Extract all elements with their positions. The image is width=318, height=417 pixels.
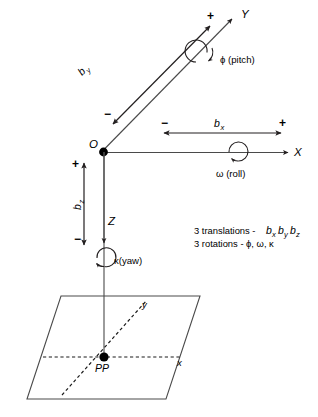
bz-subscript: z [77,200,86,205]
legend-group: 3 translations - b x b y b z 3 rotations… [194,224,300,249]
y-axis-line [104,19,233,150]
image-y-axis-label: y [141,299,148,310]
principal-point-label: PP [95,362,109,374]
z-axis-label: Z [107,215,116,227]
bz-translation-group: + − b z [71,157,86,246]
image-x-axis-label: x [176,357,183,368]
by-minus-sign: − [104,107,111,121]
bz-label: b [71,204,83,210]
by-plus-sign: + [207,9,214,23]
roll-label: ω (roll) [216,168,245,179]
roll-rotation-group: ω (roll) [216,142,248,179]
pitch-label: ϕ (pitch) [220,54,255,65]
principal-point-dot [99,352,108,361]
pitch-arc [185,40,207,62]
legend-translations-line: 3 translations - b x b y b z [194,224,300,239]
pitch-rotation-group: ϕ (pitch) [185,40,255,65]
yaw-arc-arrow [97,264,105,267]
bx-translation-group: − + b x [161,116,286,133]
y-axis-label: Y [241,8,250,20]
legend-bz-sub: z [295,230,300,239]
pitch-arc-arrow [209,48,213,61]
origin-label: O [89,138,98,150]
legend-rotations-line: 3 rotations - ϕ, ω, κ [194,238,274,249]
by-double-arrow [113,26,210,124]
by-label-group: b y [75,61,94,80]
x-axis-group: X [104,146,304,158]
bz-minus-sign: − [74,232,81,246]
by-translation-group: − + b y [75,9,214,124]
roll-arc [229,142,248,161]
yaw-label: κ(yaw) [114,255,142,266]
bx-label-group: b x [214,117,225,132]
bx-minus-sign: − [161,116,168,130]
legend-by-sub: y [283,230,289,239]
roll-arc-arrow [232,159,239,161]
yaw-rotation-group: κ(yaw) [97,248,143,267]
image-plane-group: y x PP [27,296,200,399]
legend-translations-prefix: 3 translations - [194,225,256,236]
y-axis-group: Y [104,8,251,150]
image-plane-outline [27,296,200,399]
bx-label: b [214,117,220,129]
diagram-canvas: Y − + b y ϕ (pitch) X − + [0,0,318,417]
bx-subscript: x [219,123,225,132]
origin-group: O [89,138,108,156]
orientation-diagram: Y − + b y ϕ (pitch) X − + [0,0,318,417]
bz-plus-sign: + [72,157,79,171]
bx-plus-sign: + [279,116,286,130]
x-axis-label: X [293,146,303,158]
